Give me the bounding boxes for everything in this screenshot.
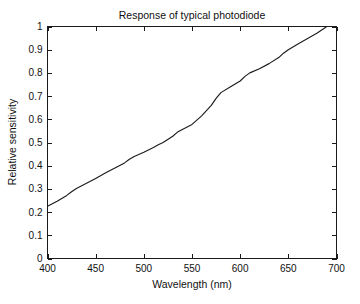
y-tick-label: 0.4 bbox=[29, 160, 43, 171]
y-tick-label: 0.3 bbox=[29, 183, 43, 194]
x-tick-label: 400 bbox=[39, 263, 56, 274]
x-tick-label: 500 bbox=[135, 263, 152, 274]
x-tick-label: 700 bbox=[328, 263, 345, 274]
y-tick-label: 0.7 bbox=[29, 91, 43, 102]
y-tick-label: 0 bbox=[37, 253, 43, 264]
y-tick-label: 0.5 bbox=[29, 137, 43, 148]
x-tick-label: 600 bbox=[232, 263, 249, 274]
y-tick-label: 0.6 bbox=[29, 114, 43, 125]
chart-figure: Response of typical photodiode 400450500… bbox=[0, 0, 360, 304]
x-axis-title: Wavelength (nm) bbox=[152, 278, 232, 290]
y-axis-title: Relative sensitivity bbox=[6, 98, 18, 185]
photodiode-response-chart: Response of typical photodiode 400450500… bbox=[0, 0, 360, 304]
y-tick-label: 0.8 bbox=[29, 67, 43, 78]
x-tick-label: 550 bbox=[184, 263, 201, 274]
chart-title: Response of typical photodiode bbox=[119, 9, 266, 21]
y-tick-label: 1 bbox=[37, 21, 43, 32]
y-tick-label: 0.9 bbox=[29, 44, 43, 55]
x-tick-label: 650 bbox=[280, 263, 297, 274]
y-tick-label: 0.2 bbox=[29, 207, 43, 218]
x-tick-label: 450 bbox=[87, 263, 104, 274]
y-tick-label: 0.1 bbox=[29, 230, 43, 241]
